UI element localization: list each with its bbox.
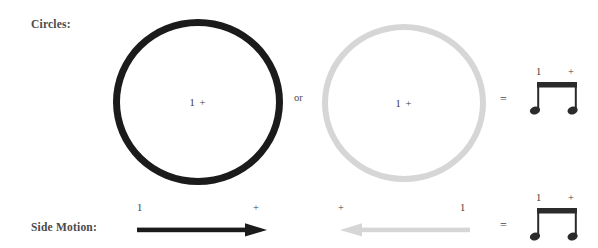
- conjunction-or: or: [294, 92, 303, 103]
- arrow-right-end-mark: +: [253, 202, 259, 213]
- equals-sign-top: =: [500, 92, 507, 107]
- notation-bottom-beat-and: +: [568, 192, 574, 203]
- arrow-left-start-mark: +: [338, 202, 344, 213]
- circle-black: 1 +: [113, 19, 283, 185]
- notation-bottom-beat-one: 1: [536, 192, 541, 203]
- notation-top-beat-one: 1: [536, 66, 541, 77]
- row-label-side-motion: Side Motion:: [31, 221, 97, 233]
- arrow-left-icon: [334, 220, 474, 242]
- circle-gray-caption: 1 +: [328, 98, 480, 109]
- arrow-left-gray: [334, 220, 474, 242]
- row-label-circles: Circles:: [31, 18, 71, 30]
- circle-gray: 1 +: [322, 24, 486, 182]
- circle-black-caption: 1 +: [120, 97, 276, 108]
- equals-sign-bottom: =: [500, 218, 507, 233]
- music-notation-bottom: 1 +: [529, 192, 587, 246]
- arrow-right-black: [133, 220, 271, 242]
- music-notation-top: 1 +: [529, 66, 587, 120]
- arrow-left-end-mark: 1: [460, 202, 465, 213]
- arrow-right-icon: [133, 220, 271, 242]
- arrow-right-start-mark: 1: [137, 202, 142, 213]
- diagram-canvas: Circles: 1 + or 1 + = 1 + Side Motion: 1…: [0, 0, 598, 248]
- notation-top-beat-and: +: [568, 66, 574, 77]
